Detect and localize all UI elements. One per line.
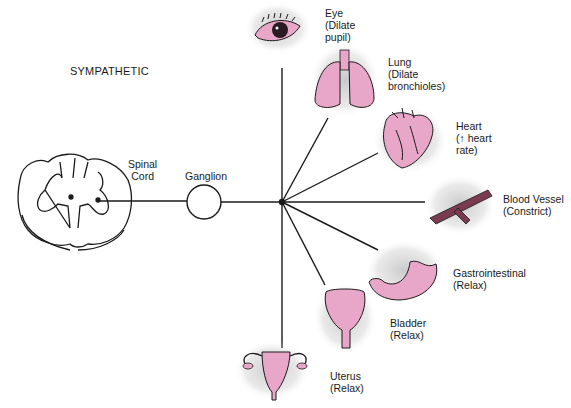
bladder-label: Bladder (Relax) [390,317,426,341]
uterus-label: Uterus (Relax) [330,370,364,394]
bladder-icon [313,282,377,354]
eye-label: Eye (Dilate pupil) [325,7,355,43]
organ-name: Gastrointestinal [453,267,526,279]
organ-effect: (Dilate pupil) [325,19,355,43]
organ-effect: (Constrict) [503,205,551,217]
gastrointestinal-label: Gastrointestinal (Relax) [453,267,526,291]
diagram-title: SYMPATHETIC [70,65,149,77]
lung-label: Lung (Dilate bronchioles) [388,56,445,92]
organ-effect: (↑ heart rate) [456,132,492,156]
blood-vessel-label: Blood Vessel (Constrict) [503,193,564,217]
gastrointestinal-icon [365,240,445,300]
eye-icon [244,2,312,54]
blood-vessel-icon [424,175,496,235]
spinal-cord-label: Spinal Cord [128,158,157,182]
spinal-cord-icon [18,154,131,250]
heart-icon [372,106,448,174]
organ-effect: (Dilate bronchioles) [388,68,445,92]
ganglion-icon [187,185,221,219]
organ-name: Blood Vessel [503,193,564,205]
sympathetic-diagram [0,0,571,408]
organ-effect: (Relax) [390,329,424,341]
organ-effect: (Relax) [330,382,364,394]
organ-name: Heart [456,120,482,132]
organ-name: Uterus [330,370,361,382]
organ-name: Eye [325,7,343,19]
lung-icon [310,42,380,118]
heart-label: Heart (↑ heart rate) [456,120,492,156]
organ-name: Bladder [390,317,426,329]
nerve-fibers [98,68,425,348]
organ-effect: (Relax) [453,279,487,291]
organ-name: Lung [388,56,411,68]
ganglion-label: Ganglion [185,170,227,182]
uterus-icon [234,340,310,400]
